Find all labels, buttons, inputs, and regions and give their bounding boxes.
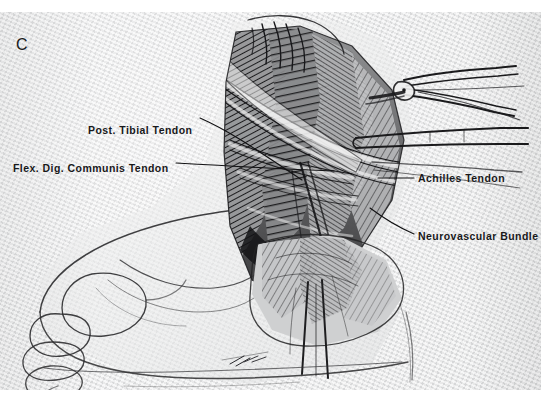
label-neurovascular-bundle: Neurovascular Bundle bbox=[418, 230, 538, 242]
panel-letter: C bbox=[16, 36, 28, 54]
label-achilles-tendon: Achilles Tendon bbox=[418, 172, 505, 184]
figure-photo-panel: C Post. Tibial Tendon Flex. Dig. Communi… bbox=[0, 12, 541, 390]
label-post-tibial-tendon: Post. Tibial Tendon bbox=[88, 124, 192, 136]
drape-edge bbox=[400, 304, 413, 382]
label-flex-dig-communis-tendon: Flex. Dig. Communis Tendon bbox=[13, 162, 169, 174]
anatomical-illustration-artwork bbox=[0, 12, 541, 390]
